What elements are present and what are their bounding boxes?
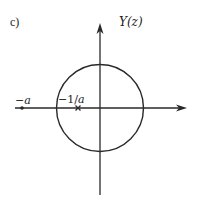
nyquist-diagram: c) Y(z) −a −1/a (0, 0, 198, 202)
minus-inverse-var: a (78, 93, 85, 106)
minus-inverse-a-label: −1/a (58, 94, 84, 105)
y-axis-label: Y(z) (119, 16, 143, 28)
minus-a-sign: − (15, 94, 24, 107)
minus-a-var: a (24, 94, 31, 107)
panel-label: c) (10, 16, 19, 28)
minus-a-label: −a (15, 95, 31, 106)
minus-inverse-sign: −1/ (58, 93, 78, 106)
